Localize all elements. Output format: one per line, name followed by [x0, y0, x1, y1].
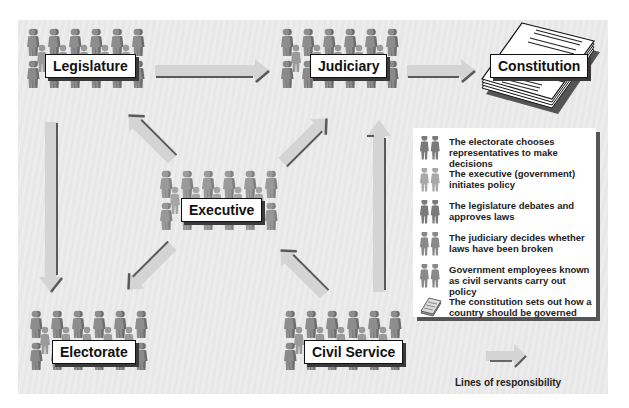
judiciary-label: Judiciary — [310, 54, 387, 78]
legend-box: The electorate chooses representatives t… — [413, 128, 596, 317]
civil-service-label: Civil Service — [304, 340, 403, 364]
people-pair-light-icon — [419, 168, 443, 192]
arrow-civilservice-to-executive — [270, 240, 332, 302]
people-pair-icon — [419, 136, 443, 160]
legend-item-constitution: The constitution sets out how a country … — [419, 296, 595, 320]
constitution-label: Constitution — [490, 54, 588, 78]
arrow-judiciary-to-constitution — [405, 58, 480, 84]
legend-item-civil-service: Government employees known as civil serv… — [419, 264, 595, 297]
arrow-legislature-to-judiciary — [153, 58, 273, 84]
people-pair-icon — [419, 264, 443, 288]
legend-item-legislature: The legislature debates and approves law… — [419, 200, 595, 224]
document-stack-icon — [419, 296, 443, 320]
legend-text: The legislature debates and approves law… — [449, 200, 595, 222]
arrow-executive-to-legislature — [118, 105, 180, 167]
legend-text: The electorate chooses representatives t… — [449, 136, 595, 169]
legend-text: Government employees known as civil serv… — [449, 264, 595, 297]
electorate-label: Electorate — [52, 340, 136, 364]
people-pair-icon — [419, 200, 443, 224]
legend-item-judiciary: The judiciary decides whether laws have … — [419, 232, 595, 256]
arrow-legislature-to-electorate — [38, 120, 64, 296]
people-pair-icon — [419, 232, 443, 256]
legend-item-executive: The executive (government) initiates pol… — [419, 168, 595, 192]
legend-text: The executive (government) initiates pol… — [449, 168, 595, 190]
lines-of-responsibility-arrow-icon — [484, 342, 530, 370]
legend-arrow-caption: Lines of responsibility — [455, 377, 561, 388]
arrow-civilservice-to-judiciary — [366, 118, 392, 294]
arrow-executive-to-judiciary — [275, 108, 337, 170]
executive-label: Executive — [181, 198, 262, 222]
legend-text: The judiciary decides whether laws have … — [449, 232, 595, 254]
legend-text: The constitution sets out how a country … — [449, 296, 595, 318]
legend-item-electorate: The electorate chooses representatives t… — [419, 136, 595, 169]
arrow-executive-to-electorate — [118, 238, 180, 300]
legislature-label: Legislature — [45, 54, 136, 78]
